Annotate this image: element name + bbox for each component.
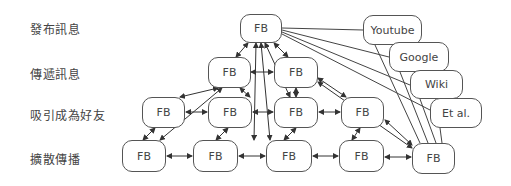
source-youtube: Youtube xyxy=(363,15,422,45)
fb-node-spread-2: FB xyxy=(193,140,238,172)
source-et-al: Et al. xyxy=(430,98,482,128)
source-google: Google xyxy=(389,42,449,72)
fb-node-spread-4: FB xyxy=(339,140,384,172)
fb-node-friend-3: FB xyxy=(274,97,318,128)
fb-node-publisher: FB xyxy=(240,14,282,43)
fb-node-spread-5: FB xyxy=(412,143,455,174)
fb-node-spread-3: FB xyxy=(266,140,312,172)
fb-node-relay-1: FB xyxy=(208,57,251,88)
fb-node-friend-1: FB xyxy=(142,97,185,128)
fb-node-friend-4: FB xyxy=(341,97,384,128)
fb-node-spread-1: FB xyxy=(122,140,166,172)
source-wiki: Wiki xyxy=(410,70,463,99)
fb-node-relay-2: FB xyxy=(274,57,318,88)
fb-node-friend-2: FB xyxy=(208,97,252,128)
